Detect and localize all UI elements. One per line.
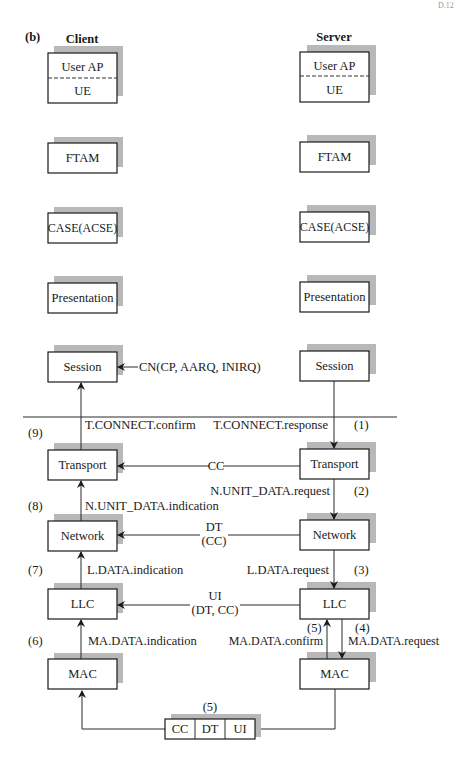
step-6: (6) — [28, 634, 43, 648]
step-7: (7) — [28, 563, 43, 577]
medium-line-client — [82, 691, 165, 729]
ui-sub-label: (DT, CC) — [192, 603, 239, 617]
server-case-box: CASE(ACSE) — [300, 205, 376, 242]
l-data-indication-label: L.DATA.indication — [87, 563, 184, 577]
n-unit-data-indication-label: N.UNIT_DATA.indication — [85, 499, 219, 513]
client-user-ap-ue-box: User AP UE — [48, 46, 123, 103]
server-llc-label: LLC — [323, 597, 347, 611]
server-transport-label: Transport — [310, 457, 359, 471]
server-presentation-label: Presentation — [304, 290, 367, 304]
protocol-diagram: D.12 (b) Client Server User AP UE FTAM C… — [0, 0, 465, 762]
step-5-confirm: (5) — [307, 621, 322, 635]
step-2: (2) — [354, 484, 369, 498]
client-mac-box: MAC — [48, 653, 123, 689]
mac-frame: CC DT UI — [165, 714, 261, 739]
client-presentation-label: Presentation — [52, 291, 115, 305]
server-llc-box: LLC — [300, 582, 376, 619]
server-network-box: Network — [300, 513, 376, 550]
step-8: (8) — [28, 499, 43, 513]
client-mac-label: MAC — [68, 667, 96, 681]
cc-label: CC — [208, 459, 225, 473]
client-session-box: Session — [48, 345, 123, 382]
t-connect-confirm-label: T.CONNECT.confirm — [85, 418, 196, 432]
step-9: (9) — [28, 426, 43, 440]
medium-line-server — [256, 689, 335, 729]
ma-data-request-label: MA.DATA.request — [348, 634, 440, 648]
client-llc-box: LLC — [48, 583, 123, 619]
frame-field-dt: DT — [202, 722, 219, 736]
step-5-frame: (5) — [203, 700, 218, 714]
client-llc-label: LLC — [71, 597, 95, 611]
t-connect-response-label: T.CONNECT.response — [213, 418, 328, 432]
client-network-box: Network — [48, 514, 123, 551]
server-ftam-label: FTAM — [318, 150, 352, 164]
server-transport-box: Transport — [300, 442, 376, 479]
client-transport-label: Transport — [58, 458, 107, 472]
client-case-box: CASE(ACSE) — [48, 207, 123, 243]
server-user-ap-ue-box: User AP UE — [300, 45, 376, 102]
dt-sub-label: (CC) — [202, 534, 227, 548]
server-ue-label: UE — [326, 83, 343, 97]
server-network-label: Network — [313, 528, 357, 542]
server-mac-label: MAC — [320, 667, 348, 681]
session-pdu-label: CN(CP, AARQ, INIRQ) — [139, 360, 261, 374]
step-1: (1) — [354, 418, 369, 432]
ma-data-indication-label: MA.DATA.indication — [88, 634, 197, 648]
l-data-request-label: L.DATA.request — [247, 563, 330, 577]
frame-field-cc: CC — [172, 722, 189, 736]
server-session-label: Session — [315, 359, 354, 373]
client-ue-label: UE — [74, 84, 91, 98]
client-ftam-label: FTAM — [66, 151, 100, 165]
client-network-label: Network — [61, 529, 105, 543]
step-4: (4) — [355, 621, 370, 635]
step-3: (3) — [354, 563, 369, 577]
dt-label: DT — [206, 520, 223, 534]
ma-data-confirm-label: MA.DATA.confirm — [229, 634, 324, 648]
ui-label: UI — [208, 589, 221, 603]
frame-field-ui: UI — [233, 722, 246, 736]
corner-mark: D.12 — [438, 1, 454, 10]
server-session-box: Session — [300, 344, 376, 381]
client-transport-box: Transport — [48, 443, 123, 480]
server-presentation-box: Presentation — [300, 275, 376, 312]
server-mac-box: MAC — [300, 652, 376, 689]
part-label: (b) — [25, 30, 40, 44]
client-user-ap-label: User AP — [61, 60, 103, 74]
client-ftam-box: FTAM — [48, 137, 123, 173]
server-ftam-box: FTAM — [300, 135, 376, 172]
server-heading: Server — [316, 30, 352, 44]
n-unit-data-request-label: N.UNIT_DATA.request — [210, 484, 330, 498]
client-session-label: Session — [63, 360, 102, 374]
server-case-label: CASE(ACSE) — [300, 220, 369, 234]
client-heading: Client — [66, 32, 99, 46]
client-presentation-box: Presentation — [48, 276, 123, 313]
server-user-ap-label: User AP — [313, 59, 355, 73]
client-case-label: CASE(ACSE) — [48, 221, 117, 235]
